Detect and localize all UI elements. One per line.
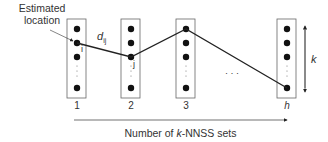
- set-label-3: 3: [181, 100, 191, 111]
- estimated-location-line2: location: [12, 14, 72, 26]
- x-axis-label-prefix: Number of: [124, 127, 176, 139]
- edge-label-dij: dij: [97, 30, 106, 44]
- set-label-h: h: [282, 100, 292, 111]
- edge-label-subscript: ij: [103, 37, 106, 44]
- set-box-h: [277, 19, 296, 98]
- set-label-2: 2: [126, 100, 136, 111]
- annotation-arrow: [50, 30, 73, 41]
- path-line: [77, 29, 287, 88]
- x-axis-label: Number of k-NNSS sets: [74, 127, 287, 139]
- ellipsis: · · ·: [225, 68, 239, 78]
- set-label-1: 1: [72, 100, 82, 111]
- set-box-2: [121, 19, 140, 98]
- set-box-1: [67, 19, 86, 98]
- node-label-i: i: [81, 44, 83, 54]
- set-box-3: [176, 19, 195, 98]
- x-axis-label-suffix: -NNSS sets: [182, 127, 237, 139]
- estimated-location-line1: Estimated: [12, 2, 72, 14]
- k-axis-label: k: [311, 53, 317, 65]
- node-label-j: j: [133, 59, 135, 69]
- estimated-location-label: Estimated location: [12, 2, 72, 26]
